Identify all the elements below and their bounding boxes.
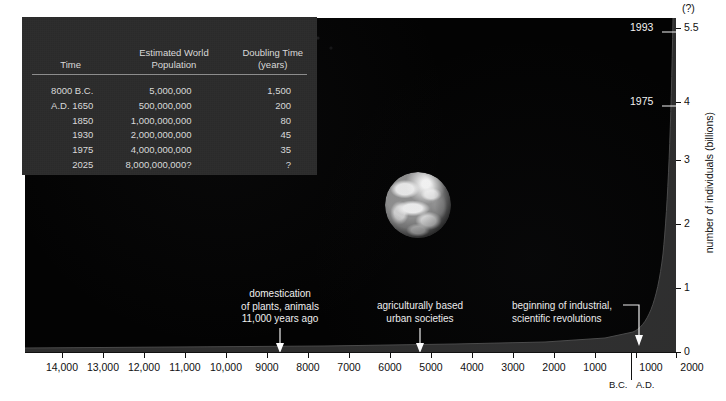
earth-terminator-shadow xyxy=(385,172,451,238)
y-axis: 5.5 4 3 2 1 0 xyxy=(676,0,726,401)
cell-time: 1975 xyxy=(22,143,119,158)
cell-population: 2,000,000,000 xyxy=(119,128,228,143)
x-tick-label: 2000 xyxy=(542,361,565,373)
cell-time: A.D. 1650 xyxy=(22,99,119,114)
column-header-time-line-1: Time xyxy=(22,59,119,71)
x-tick-13000 xyxy=(103,352,104,358)
column-header-doubling-time: Doubling Time (years) xyxy=(228,17,317,75)
column-header-population-line-1: Estimated World xyxy=(119,47,228,59)
column-header-population-line-2: Population xyxy=(119,59,228,71)
table-row: 1975 4,000,000,000 35 xyxy=(22,143,317,158)
era-label-bc: B.C. xyxy=(609,379,627,390)
cell-time: 2025 xyxy=(22,158,119,173)
table: Time Estimated World Population Doubling… xyxy=(22,17,317,173)
x-tick-label: 4000 xyxy=(460,361,483,373)
table-row: 2025 8,000,000,000? ? xyxy=(22,158,317,173)
cell-doubling: ? xyxy=(228,158,317,173)
y-tick-label: 0 xyxy=(684,345,690,357)
x-tick-label: 5000 xyxy=(419,361,442,373)
x-tick-8000 xyxy=(308,352,309,358)
y-tick-dash xyxy=(676,102,681,103)
y-tick-label: 2 xyxy=(684,217,690,229)
y-axis-title: number of individuals (billions) xyxy=(703,112,715,253)
event-arrow-1975-icon xyxy=(662,101,676,111)
cell-doubling: 1,500 xyxy=(228,75,317,99)
x-tick-2000 xyxy=(554,352,555,358)
x-tick-6000 xyxy=(390,352,391,358)
x-axis-line xyxy=(25,352,676,353)
annotation-domestication-line-3: 11,000 years ago xyxy=(210,313,350,326)
cell-time: 1850 xyxy=(22,114,119,129)
x-tick-label: 3000 xyxy=(501,361,524,373)
column-header-doubling-line-2: (years) xyxy=(228,59,317,71)
cell-population: 500,000,000 xyxy=(119,99,228,114)
earth-photo xyxy=(385,172,451,238)
event-label-1993: 1993 xyxy=(630,21,653,33)
y-tick-label: 1 xyxy=(684,281,690,293)
x-tick-2000-ad xyxy=(676,352,677,358)
y-tick-dash xyxy=(676,224,681,225)
y-tick-label: 3 xyxy=(684,153,690,165)
era-divider-line xyxy=(631,352,632,380)
x-tick-11000 xyxy=(185,352,186,358)
cell-population: 4,000,000,000 xyxy=(119,143,228,158)
event-arrow-1993-icon xyxy=(662,27,676,37)
cell-doubling: 200 xyxy=(228,99,317,114)
x-tick-label: 1000 xyxy=(583,361,606,373)
annotation-industrial-revolution: beginning of industrial, scientific revo… xyxy=(512,300,612,325)
cell-population: 8,000,000,000? xyxy=(119,158,228,173)
x-tick-1000-bc xyxy=(595,352,596,358)
x-tick-1000-ad xyxy=(636,352,637,358)
x-tick-label: 14,000 xyxy=(46,361,78,373)
x-tick-7000 xyxy=(349,352,350,358)
x-tick-label: 6000 xyxy=(378,361,401,373)
event-label-1975: 1975 xyxy=(630,95,653,107)
x-tick-label: 9000 xyxy=(255,361,278,373)
x-tick-4000 xyxy=(472,352,473,358)
x-tick-label: 7000 xyxy=(337,361,360,373)
annotation-domestication-arrow xyxy=(273,328,287,352)
annotation-urban-societies: agriculturally based urban societies xyxy=(345,300,495,325)
cell-population: 5,000,000 xyxy=(119,75,228,99)
table-header-row: Time Estimated World Population Doubling… xyxy=(22,17,317,75)
x-tick-3000 xyxy=(513,352,514,358)
x-tick-label: 13,000 xyxy=(87,361,119,373)
annotation-industrial-arrow xyxy=(623,303,649,347)
population-growth-figure: domestication of plants, animals 11,000 … xyxy=(0,0,726,401)
y-tick-dash xyxy=(676,288,681,289)
column-header-time: Time xyxy=(22,17,119,75)
annotation-domestication: domestication of plants, animals 11,000 … xyxy=(210,288,350,326)
x-tick-9000 xyxy=(267,352,268,358)
x-tick-label: 2000 xyxy=(680,361,703,373)
annotation-urban-line-1: agriculturally based xyxy=(345,300,495,313)
population-data-table: Time Estimated World Population Doubling… xyxy=(22,17,317,175)
era-label-ad: A.D. xyxy=(636,379,654,390)
x-tick-label: 10,000 xyxy=(210,361,242,373)
x-tick-14000 xyxy=(62,352,63,358)
annotation-domestication-line-2: of plants, animals xyxy=(210,301,350,314)
column-header-population: Estimated World Population xyxy=(119,17,228,75)
cell-population: 1,000,000,000 xyxy=(119,114,228,129)
table-body: 8000 B.C. 5,000,000 1,500 A.D. 1650 500,… xyxy=(22,75,317,173)
table-row: A.D. 1650 500,000,000 200 xyxy=(22,99,317,114)
x-tick-10000 xyxy=(226,352,227,358)
y-tick-dash xyxy=(676,160,681,161)
x-tick-label: 1000 xyxy=(639,361,662,373)
x-tick-label: 12,000 xyxy=(128,361,160,373)
y-tick-label: 4 xyxy=(684,95,690,107)
x-tick-5000 xyxy=(431,352,432,358)
table-row: 1930 2,000,000,000 45 xyxy=(22,128,317,143)
annotation-urban-line-2: urban societies xyxy=(345,313,495,326)
annotation-industrial-line-2: scientific revolutions xyxy=(512,313,612,326)
table-row: 8000 B.C. 5,000,000 1,500 xyxy=(22,75,317,99)
y-tick-label: 5.5 xyxy=(684,21,699,33)
cell-time: 8000 B.C. xyxy=(22,75,119,99)
column-header-doubling-line-1: Doubling Time xyxy=(228,47,317,59)
cell-time: 1930 xyxy=(22,128,119,143)
y-tick-dash xyxy=(676,28,681,29)
annotation-domestication-line-1: domestication xyxy=(210,288,350,301)
annotation-urban-arrow xyxy=(413,328,427,352)
cell-doubling: 35 xyxy=(228,143,317,158)
table-row: 1850 1,000,000,000 80 xyxy=(22,114,317,129)
x-tick-label: 11,000 xyxy=(169,361,200,373)
